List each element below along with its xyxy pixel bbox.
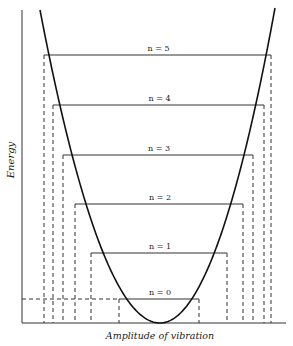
energy-level-label: n = 1 xyxy=(149,242,171,251)
energy-level-label: n = 2 xyxy=(149,193,171,202)
energy-level-diagram: n = 5n = 4n = 3n = 2n = 1n = 0 Energy Am… xyxy=(0,0,293,346)
x-axis-label: Amplitude of vibration xyxy=(105,330,214,341)
energy-level-label: n = 5 xyxy=(147,44,169,53)
energy-levels: n = 5n = 4n = 3n = 2n = 1n = 0 xyxy=(44,44,271,299)
energy-level-label: n = 4 xyxy=(148,94,170,103)
y-axis-label: Energy xyxy=(5,141,16,179)
energy-level-label: n = 0 xyxy=(149,288,171,297)
energy-level-label: n = 3 xyxy=(148,144,170,153)
